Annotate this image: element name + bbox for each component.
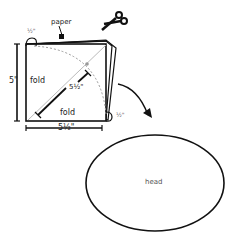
fold-left-label: fold: [30, 77, 45, 85]
half-inch-top-label: ½": [27, 28, 36, 34]
width-label: 5½": [58, 124, 75, 132]
head-label: head: [145, 179, 162, 186]
fold-bottom-label: fold: [60, 109, 75, 117]
diagram-canvas: [0, 0, 238, 244]
scissors-icon: [102, 12, 127, 30]
half-inch-right-label: ½": [116, 112, 125, 118]
paper-label: paper: [51, 19, 71, 26]
diagonal-label: 5½": [69, 84, 83, 91]
height-label: 5": [9, 77, 18, 85]
